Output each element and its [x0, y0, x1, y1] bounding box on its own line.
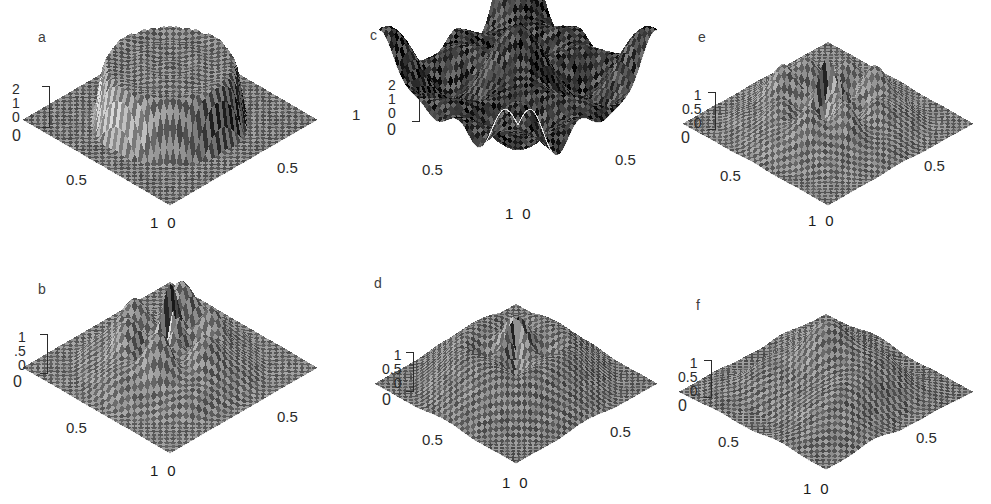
z-tick-b-0: 1: [18, 330, 26, 344]
z-tick-b-1: .5: [14, 344, 26, 358]
y-tick-e: 0.5: [924, 158, 945, 173]
bottom-left-tick-d: 1: [502, 474, 510, 491]
z-tick-b-2: 0: [18, 358, 26, 372]
bottom-corner-ticks-d: 10: [502, 474, 528, 491]
z-tick-a-1: 1: [12, 96, 20, 110]
z-axis-bracket-a: [42, 86, 50, 128]
origin-tick-f: 0: [678, 398, 687, 414]
z-axis-bracket-b: [40, 334, 48, 374]
z-tick-d-0: 1: [394, 348, 402, 362]
panel-letter-f: f: [696, 298, 700, 312]
figure-canvas: a21000.50.5101b1.5000.50.510c21000.50.51…: [0, 0, 991, 504]
z-tick-f-1: 0.5: [678, 370, 697, 384]
z-tick-e-0: 1: [694, 88, 702, 102]
x-tick-c: 0.5: [422, 162, 443, 177]
z-tick-f-0: 1: [690, 356, 698, 370]
y-tick-d: 0.5: [610, 424, 631, 439]
bottom-left-tick-b: 1: [150, 462, 158, 479]
z-tick-e-1: 0.5: [682, 102, 701, 116]
bottom-right-tick-f: 0: [820, 480, 828, 497]
panel-c: c21000.50.510: [330, 0, 660, 252]
panel-b: b1.5000.50.510: [0, 252, 330, 504]
z-tick-d-2: 0: [394, 376, 402, 390]
y-tick-a: 0.5: [277, 160, 298, 175]
origin-tick-b: 0: [13, 374, 22, 390]
z-tick-a-2: 0: [12, 110, 20, 124]
y-tick-c: 0.5: [615, 152, 636, 167]
origin-tick-c: 0: [387, 122, 396, 138]
z-tick-d-1: 0.5: [382, 362, 401, 376]
z-axis-ticks-b: 1.50: [14, 330, 26, 372]
panel-f: f10.5000.50.510: [660, 252, 990, 504]
panel-letter-e: e: [698, 30, 706, 44]
z-axis-bracket-e: [708, 92, 716, 130]
z-axis-ticks-c: 210: [388, 78, 396, 120]
z-axis-ticks-f: 10.50: [678, 356, 697, 398]
panel-letter-d: d: [374, 276, 382, 290]
bottom-left-tick-a: 1: [150, 214, 158, 231]
z-axis-ticks-e: 10.50: [682, 88, 701, 130]
panel-letter-b: b: [38, 282, 46, 296]
bottom-corner-ticks-c: 10: [505, 205, 531, 222]
bottom-right-tick-d: 0: [519, 474, 527, 491]
x-tick-b: 0.5: [66, 420, 87, 435]
panel-letter-a: a: [38, 30, 46, 44]
panel-a: a21000.50.5101: [0, 0, 330, 252]
panel-letter-c: c: [370, 28, 377, 42]
surface-plot-c: [330, 0, 660, 252]
z-tick-c-1: 1: [388, 92, 396, 106]
bottom-corner-ticks-f: 10: [803, 480, 829, 497]
z-tick-c-2: 0: [388, 106, 396, 120]
y-tick-b: 0.5: [277, 409, 298, 424]
z-axis-ticks-a: 210: [12, 82, 20, 124]
origin-tick-e: 0: [681, 130, 690, 146]
z-tick-e-2: 0: [694, 116, 702, 130]
bottom-left-tick-f: 1: [803, 480, 811, 497]
bottom-right-tick-c: 0: [522, 205, 530, 222]
z-tick-f-2: 0: [690, 384, 698, 398]
x-tick-f: 0.5: [718, 434, 739, 449]
x-tick-e: 0.5: [720, 168, 741, 183]
bottom-left-tick-c: 1: [505, 205, 513, 222]
bottom-right-tick-a: 0: [167, 214, 175, 231]
origin-tick-d: 0: [382, 392, 391, 408]
panel-e: e10.5000.50.510: [660, 0, 990, 252]
x-tick-d: 0.5: [422, 432, 443, 447]
origin-tick-a: 0: [12, 128, 21, 144]
bottom-left-tick-e: 1: [808, 212, 816, 229]
z-axis-ticks-d: 10.50: [382, 348, 401, 390]
bottom-right-tick-b: 0: [167, 462, 175, 479]
bottom-corner-ticks-e: 10: [808, 212, 834, 229]
bottom-right-tick-e: 0: [825, 212, 833, 229]
z-tick-c-0: 2: [388, 78, 396, 92]
z-axis-bracket-f: [704, 360, 712, 398]
z-axis-bracket-c: [412, 82, 420, 122]
x-tick-a: 0.5: [66, 172, 87, 187]
panel-d: d10.5000.50.510: [330, 252, 660, 504]
z-tick-a-0: 2: [12, 82, 20, 96]
bottom-corner-ticks-a: 10: [150, 214, 176, 231]
z-axis-bracket-d: [406, 352, 414, 392]
y-tick-f: 0.5: [916, 430, 937, 445]
bottom-corner-ticks-b: 10: [150, 462, 176, 479]
